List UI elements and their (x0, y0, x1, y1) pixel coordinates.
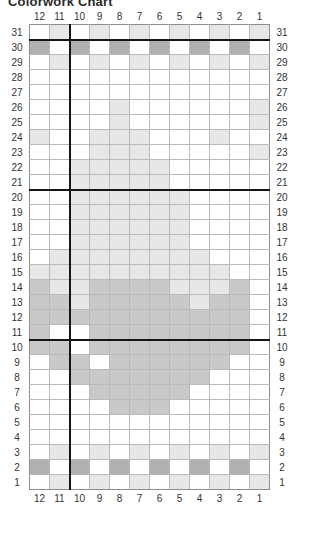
chart-cell[interactable] (250, 220, 270, 235)
chart-cell[interactable] (130, 400, 150, 415)
chart-cell[interactable] (170, 475, 190, 490)
chart-cell[interactable] (210, 250, 230, 265)
chart-cell[interactable] (30, 25, 50, 40)
chart-cell[interactable] (230, 370, 250, 385)
chart-cell[interactable] (150, 190, 170, 205)
chart-cell[interactable] (90, 40, 110, 55)
chart-cell[interactable] (50, 250, 70, 265)
chart-cell[interactable] (170, 145, 190, 160)
chart-cell[interactable] (90, 235, 110, 250)
chart-cell[interactable] (90, 280, 110, 295)
chart-cell[interactable] (230, 145, 250, 160)
chart-cell[interactable] (230, 250, 250, 265)
chart-cell[interactable] (90, 145, 110, 160)
chart-cell[interactable] (250, 310, 270, 325)
chart-cell[interactable] (70, 205, 90, 220)
chart-cell[interactable] (70, 280, 90, 295)
chart-cell[interactable] (170, 100, 190, 115)
chart-cell[interactable] (210, 415, 230, 430)
chart-cell[interactable] (90, 250, 110, 265)
chart-cell[interactable] (170, 430, 190, 445)
chart-cell[interactable] (70, 55, 90, 70)
chart-cell[interactable] (30, 280, 50, 295)
chart-cell[interactable] (150, 415, 170, 430)
chart-cell[interactable] (210, 70, 230, 85)
chart-cell[interactable] (50, 295, 70, 310)
chart-cell[interactable] (50, 40, 70, 55)
chart-cell[interactable] (70, 430, 90, 445)
chart-cell[interactable] (230, 85, 250, 100)
chart-cell[interactable] (50, 100, 70, 115)
chart-cell[interactable] (250, 325, 270, 340)
chart-cell[interactable] (210, 160, 230, 175)
chart-cell[interactable] (110, 400, 130, 415)
chart-cell[interactable] (190, 235, 210, 250)
chart-cell[interactable] (210, 175, 230, 190)
chart-cell[interactable] (230, 355, 250, 370)
chart-cell[interactable] (210, 40, 230, 55)
chart-cell[interactable] (50, 25, 70, 40)
chart-cell[interactable] (90, 115, 110, 130)
chart-cell[interactable] (130, 295, 150, 310)
chart-cell[interactable] (70, 415, 90, 430)
chart-cell[interactable] (190, 295, 210, 310)
chart-cell[interactable] (130, 340, 150, 355)
chart-cell[interactable] (70, 460, 90, 475)
chart-cell[interactable] (230, 280, 250, 295)
chart-cell[interactable] (150, 205, 170, 220)
chart-cell[interactable] (70, 130, 90, 145)
chart-cell[interactable] (90, 160, 110, 175)
chart-cell[interactable] (50, 160, 70, 175)
chart-cell[interactable] (210, 55, 230, 70)
chart-cell[interactable] (70, 325, 90, 340)
chart-cell[interactable] (130, 190, 150, 205)
chart-cell[interactable] (190, 310, 210, 325)
chart-cell[interactable] (150, 355, 170, 370)
chart-cell[interactable] (250, 265, 270, 280)
chart-cell[interactable] (30, 55, 50, 70)
chart-cell[interactable] (250, 385, 270, 400)
chart-cell[interactable] (190, 355, 210, 370)
chart-cell[interactable] (230, 310, 250, 325)
chart-cell[interactable] (250, 85, 270, 100)
chart-cell[interactable] (190, 475, 210, 490)
chart-cell[interactable] (130, 280, 150, 295)
chart-cell[interactable] (110, 280, 130, 295)
chart-cell[interactable] (50, 340, 70, 355)
chart-cell[interactable] (150, 310, 170, 325)
chart-cell[interactable] (70, 400, 90, 415)
chart-cell[interactable] (190, 205, 210, 220)
chart-cell[interactable] (30, 100, 50, 115)
chart-cell[interactable] (150, 235, 170, 250)
chart-cell[interactable] (210, 310, 230, 325)
chart-cell[interactable] (50, 460, 70, 475)
chart-cell[interactable] (110, 160, 130, 175)
chart-cell[interactable] (230, 430, 250, 445)
chart-cell[interactable] (250, 130, 270, 145)
chart-cell[interactable] (150, 430, 170, 445)
chart-cell[interactable] (190, 175, 210, 190)
chart-cell[interactable] (30, 40, 50, 55)
chart-cell[interactable] (190, 265, 210, 280)
chart-cell[interactable] (50, 115, 70, 130)
chart-cell[interactable] (70, 235, 90, 250)
chart-cell[interactable] (30, 430, 50, 445)
chart-cell[interactable] (50, 55, 70, 70)
chart-cell[interactable] (50, 235, 70, 250)
chart-cell[interactable] (70, 355, 90, 370)
chart-cell[interactable] (130, 100, 150, 115)
chart-cell[interactable] (130, 415, 150, 430)
chart-cell[interactable] (250, 340, 270, 355)
chart-cell[interactable] (210, 460, 230, 475)
chart-cell[interactable] (90, 385, 110, 400)
chart-cell[interactable] (130, 55, 150, 70)
chart-cell[interactable] (90, 475, 110, 490)
chart-cell[interactable] (90, 85, 110, 100)
chart-cell[interactable] (130, 430, 150, 445)
chart-cell[interactable] (210, 145, 230, 160)
chart-cell[interactable] (30, 265, 50, 280)
chart-cell[interactable] (190, 400, 210, 415)
chart-cell[interactable] (250, 115, 270, 130)
chart-cell[interactable] (70, 100, 90, 115)
chart-cell[interactable] (170, 340, 190, 355)
